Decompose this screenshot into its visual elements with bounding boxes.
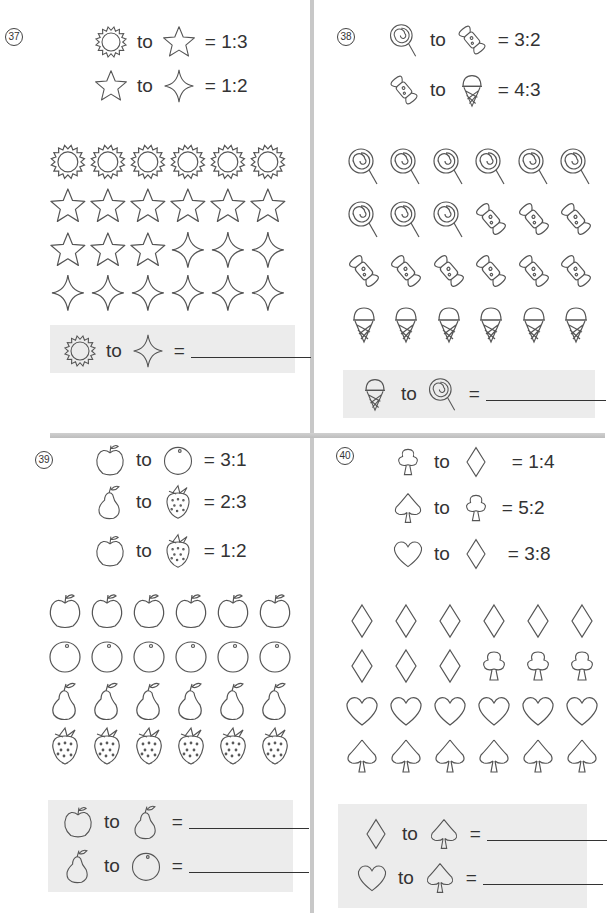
strawberry-icon: [129, 726, 169, 766]
lollipop-icon: [386, 146, 426, 186]
apple-icon: [171, 591, 211, 631]
ice-cream-icon: [429, 304, 469, 344]
grid-row: [342, 598, 602, 643]
heart-icon: [354, 860, 390, 896]
equals-sign: =: [469, 383, 480, 405]
pear-icon: [128, 804, 164, 840]
ratio-rule: to = 5:2: [390, 490, 545, 526]
diamond-icon: [430, 601, 470, 641]
star-icon: [48, 230, 88, 270]
question-number: 40: [336, 447, 354, 465]
orange-icon: [128, 848, 164, 884]
spade-icon: [386, 736, 426, 776]
sun-icon: [128, 142, 168, 182]
grid-row: [45, 678, 295, 723]
sun-icon: [88, 142, 128, 182]
ice-cream-icon: [514, 304, 554, 344]
apple-icon: [213, 591, 253, 631]
to-label: to: [434, 543, 450, 565]
picture-grid: [45, 588, 295, 768]
answer-line: to =: [354, 860, 603, 896]
sun-icon: [62, 333, 98, 369]
star-icon: [208, 186, 248, 226]
ratio-value: = 5:2: [502, 497, 545, 519]
question-40: 40 to = 1:4 to = 5:2 to = 3:8 to = to =: [314, 438, 605, 913]
orange-icon: [255, 636, 295, 676]
spade-icon: [390, 490, 426, 526]
answer-blank[interactable]: [483, 872, 603, 885]
heart-icon: [518, 691, 558, 731]
answer-blank[interactable]: [189, 816, 309, 829]
lollipop-icon: [429, 146, 469, 186]
lollipop-icon: [471, 146, 511, 186]
diamond-icon: [358, 816, 394, 852]
grid-row: [48, 140, 288, 184]
lollipop-icon: [344, 199, 384, 239]
orange-icon: [171, 636, 211, 676]
sparkle-icon: [128, 273, 168, 313]
question-number: 38: [337, 28, 355, 46]
to-label: to: [401, 383, 417, 405]
ice-cream-icon: [357, 376, 393, 412]
answer-blank[interactable]: [189, 860, 309, 873]
grid-row: [344, 193, 596, 246]
ratio-value: = 1:2: [205, 75, 248, 97]
strawberry-icon: [87, 726, 127, 766]
to-label: to: [434, 451, 450, 473]
sparkle-icon: [161, 68, 197, 104]
diamond-icon: [386, 601, 426, 641]
grid-row: [342, 733, 602, 778]
spade-icon: [430, 736, 470, 776]
club-icon: [518, 646, 558, 686]
spade-icon: [342, 736, 382, 776]
answer-blank[interactable]: [191, 345, 311, 358]
ratio-rule: to = 4:3: [386, 72, 541, 108]
candy-icon: [514, 199, 554, 239]
ratio-value: = 3:1: [204, 449, 247, 471]
candy-icon: [386, 72, 422, 108]
lollipop-icon: [344, 146, 384, 186]
candy-icon: [471, 199, 511, 239]
strawberry-icon: [255, 726, 295, 766]
to-label: to: [106, 340, 122, 362]
answer-blank[interactable]: [487, 828, 607, 841]
answer-box: to =: [50, 325, 295, 373]
answer-line: to =: [357, 376, 606, 412]
ratio-value: = 3:2: [498, 29, 541, 51]
to-label: to: [402, 823, 418, 845]
sun-icon: [248, 142, 288, 182]
picture-grid: [342, 598, 602, 778]
apple-icon: [60, 804, 96, 840]
ratio-value: = 2:3: [204, 491, 247, 513]
ratio-rule: to = 1:2: [92, 533, 247, 569]
question-number: 37: [5, 28, 23, 46]
candy-icon: [344, 251, 384, 291]
answer-blank[interactable]: [486, 388, 606, 401]
pear-icon: [129, 681, 169, 721]
heart-icon: [390, 536, 426, 572]
to-label: to: [137, 31, 153, 53]
to-label: to: [104, 855, 120, 877]
orange-icon: [213, 636, 253, 676]
grid-row: [48, 184, 288, 228]
ice-cream-icon: [471, 304, 511, 344]
pear-icon: [213, 681, 253, 721]
question-number: 39: [35, 451, 53, 469]
ratio-value: = 1:3: [205, 31, 248, 53]
diamond-icon: [342, 601, 382, 641]
grid-row: [344, 140, 596, 193]
answer-box: to =: [343, 370, 595, 418]
lollipop-icon: [386, 22, 422, 58]
grid-row: [45, 588, 295, 633]
to-label: to: [136, 540, 152, 562]
ice-cream-icon: [344, 304, 384, 344]
grid-row: [342, 643, 602, 688]
to-label: to: [430, 29, 446, 51]
spade-icon: [474, 736, 514, 776]
to-label: to: [104, 811, 120, 833]
heart-icon: [474, 691, 514, 731]
diamond-icon: [458, 536, 494, 572]
grid-row: [48, 271, 288, 315]
strawberry-icon: [160, 533, 196, 569]
lollipop-icon: [429, 199, 469, 239]
